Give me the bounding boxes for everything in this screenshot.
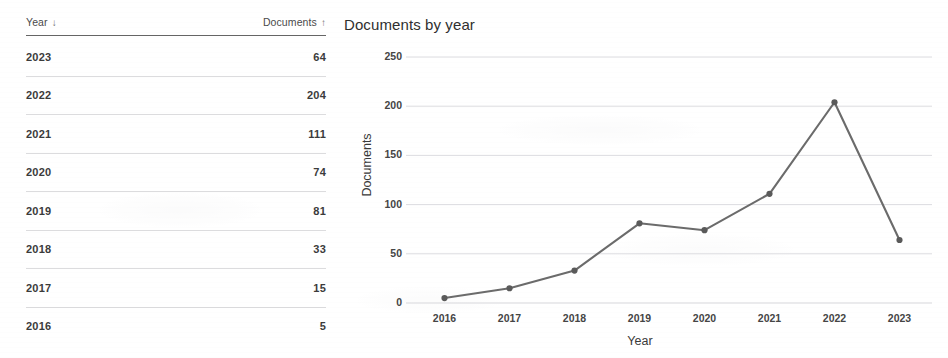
cell-documents: 204 — [307, 89, 326, 101]
table-row[interactable]: 2021 111 — [26, 115, 326, 154]
cell-year: 2022 — [26, 89, 51, 101]
cell-documents: 111 — [308, 128, 326, 140]
column-header-year[interactable]: Year↓ — [26, 16, 57, 28]
cell-documents: 15 — [313, 282, 326, 294]
cell-year: 2023 — [26, 51, 51, 63]
table-header-rule — [26, 35, 326, 36]
cell-year: 2016 — [26, 320, 51, 332]
y-tick-label: 250 — [368, 50, 402, 62]
x-tick-label: 2017 — [487, 312, 533, 324]
data-point[interactable] — [701, 227, 707, 233]
gridlines — [406, 57, 932, 303]
cell-year: 2017 — [26, 282, 51, 294]
x-tick-label: 2018 — [552, 312, 598, 324]
x-tick-label: 2023 — [877, 312, 923, 324]
cell-documents: 33 — [313, 243, 326, 255]
data-point[interactable] — [766, 191, 772, 197]
cell-year: 2018 — [26, 243, 51, 255]
data-line-documents — [445, 102, 900, 298]
cell-documents: 64 — [313, 51, 326, 63]
table-row[interactable]: 2018 33 — [26, 231, 326, 270]
y-tick-label: 150 — [368, 148, 402, 160]
x-tick-label: 2020 — [682, 312, 728, 324]
table-row[interactable]: 2019 81 — [26, 192, 326, 231]
data-point[interactable] — [441, 295, 447, 301]
x-tick-label: 2021 — [747, 312, 793, 324]
data-point[interactable] — [831, 99, 837, 105]
cell-documents: 74 — [313, 166, 326, 178]
table-row[interactable]: 2022 204 — [26, 77, 326, 116]
x-tick-label: 2016 — [422, 312, 468, 324]
table-row[interactable]: 2017 15 — [26, 269, 326, 308]
table-row[interactable]: 2016 5 — [26, 308, 326, 346]
x-tick-label: 2019 — [617, 312, 663, 324]
y-tick-label: 200 — [368, 99, 402, 111]
sort-desc-icon[interactable]: ↓ — [52, 17, 57, 28]
y-tick-label: 0 — [368, 296, 402, 308]
line-chart-plot — [340, 12, 940, 352]
cell-year: 2019 — [26, 205, 51, 217]
table-row[interactable]: 2023 64 — [26, 38, 326, 77]
data-point[interactable] — [896, 237, 902, 243]
sort-asc-icon[interactable]: ↑ — [321, 17, 326, 28]
data-point[interactable] — [571, 267, 577, 273]
column-header-documents-label: Documents — [263, 16, 317, 28]
documents-by-year-chart: Documents by year Documents Year 0501001… — [340, 12, 940, 352]
data-point[interactable] — [636, 220, 642, 226]
data-point[interactable] — [506, 285, 512, 291]
data-point-markers — [441, 99, 902, 301]
cell-year: 2021 — [26, 128, 51, 140]
column-header-documents[interactable]: Documents↑ — [263, 16, 326, 28]
cell-documents: 81 — [313, 205, 326, 217]
column-header-year-label: Year — [26, 16, 48, 28]
documents-by-year-table: Year↓ Documents↑ 2023 64 2022 204 2021 1… — [26, 16, 326, 345]
y-tick-label: 100 — [368, 198, 402, 210]
cell-documents: 5 — [320, 320, 326, 332]
table-header-row: Year↓ Documents↑ — [26, 16, 326, 35]
cell-year: 2020 — [26, 166, 51, 178]
table-row[interactable]: 2020 74 — [26, 154, 326, 193]
x-tick-label: 2022 — [812, 312, 858, 324]
y-tick-label: 50 — [368, 247, 402, 259]
